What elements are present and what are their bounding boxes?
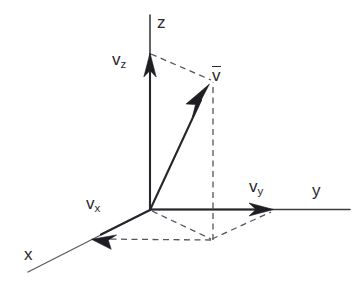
vector-v-label: v <box>212 66 221 84</box>
dashed-line-base-to-vx <box>95 239 211 240</box>
x-axis-label: x <box>24 246 33 263</box>
vy-label-base: v <box>249 177 258 196</box>
vz-component-label: vz <box>112 51 126 71</box>
axes-group <box>28 15 350 272</box>
construction-lines-group <box>95 54 271 240</box>
vx-component-line <box>101 210 150 235</box>
main-vector-line <box>150 100 201 210</box>
component-vectors-group <box>92 53 274 249</box>
dashed-line-base-to-vy <box>212 212 271 239</box>
vx-label-base: v <box>86 194 95 213</box>
vx-component-label: vx <box>86 195 100 215</box>
vector-v-label-text: v <box>212 66 221 84</box>
vector-diagram-canvas <box>0 0 353 284</box>
vx-label-subscript: x <box>95 202 101 214</box>
main-vector-group <box>150 84 210 210</box>
vy-label-subscript: y <box>258 185 264 197</box>
vy-component-label: vy <box>249 178 263 198</box>
dashed-line-vz-to-tip <box>151 54 211 80</box>
vz-label-subscript: z <box>121 58 127 70</box>
z-axis-label: z <box>157 14 166 31</box>
dashed-line-origin-to-base-corner <box>152 211 211 239</box>
y-axis-label: y <box>312 182 321 199</box>
vector-diagram-figure: z vz v vy y vx x <box>0 0 353 284</box>
vz-label-base: v <box>112 50 121 69</box>
main-vector-arrowhead-icon <box>186 84 210 117</box>
